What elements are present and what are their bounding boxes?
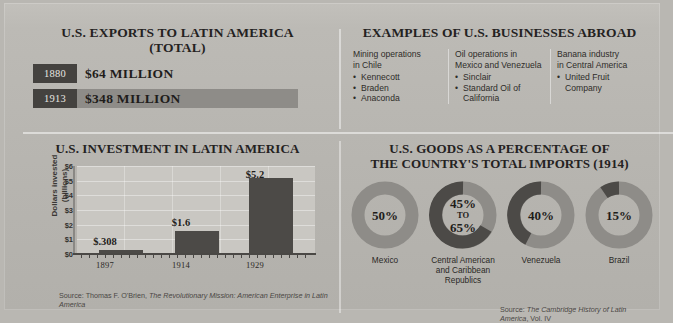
list-item-label: Sinclair: [463, 72, 491, 82]
poster-inner: U.S. EXPORTS TO LATIN AMERICA (TOTAL) 18…: [17, 15, 655, 304]
businesses-column-oil: Oil operations in Mexico and Venezuela •…: [448, 49, 550, 104]
x-tick: [169, 255, 170, 258]
x-tick: [129, 255, 130, 258]
divider-vertical-top: [339, 29, 341, 129]
investment-chart: Dollars invested (billions): [25, 164, 330, 276]
exports-row-1913: 1913 $348 MILLION: [25, 89, 330, 108]
x-tick: [137, 255, 138, 258]
donut-value-venezuela: 40%: [528, 209, 554, 222]
list-item: •Standard Oil of California: [455, 83, 544, 104]
list-item: •Kennecott: [353, 72, 442, 83]
businesses-list-oil: •Sinclair •Standard Oil of California: [455, 72, 544, 104]
imports-panel: U.S. GOODS AS A PERCENTAGE OF THE COUNTR…: [347, 141, 652, 306]
list-item-label: Standard Oil of California: [463, 83, 520, 104]
donut-label-line2: and Caribbean: [436, 265, 490, 275]
donut-label-line1: Venezuela: [522, 255, 561, 265]
x-tick: [265, 255, 266, 258]
x-tick: [257, 255, 258, 258]
businesses-list-mining: •Kennecott •Braden •Anaconda: [353, 72, 442, 104]
source-prefix: Source:: [500, 305, 527, 314]
bullet-icon: •: [455, 72, 458, 83]
heading-line1: Oil operations in: [455, 49, 517, 59]
bar-1929: [249, 178, 293, 254]
exports-year-1913: 1913: [33, 89, 77, 108]
donut-label-mexico: Mexico: [349, 255, 421, 265]
businesses-column-mining: Mining operations in Chile •Kennecott •B…: [347, 49, 448, 104]
bullet-icon: •: [353, 83, 356, 94]
donut-value-line3: 65%: [450, 221, 476, 234]
exports-panel: U.S. EXPORTS TO LATIN AMERICA (TOTAL) 18…: [25, 25, 330, 125]
x-tick: [89, 255, 90, 258]
heading-line2: in Chile: [353, 60, 382, 70]
imports-source: Source: The Cambridge History of Latin A…: [500, 305, 650, 323]
donut-value-brazil: 15%: [606, 209, 632, 222]
exports-title-line1: U.S. EXPORTS TO LATIN AMERICA: [61, 25, 294, 40]
x-tick: [153, 255, 154, 258]
bullet-icon: •: [455, 83, 458, 94]
divider-vertical-bottom: [339, 141, 341, 313]
list-item: •Anaconda: [353, 93, 442, 104]
donut-central-american: 45% TO 65% Central American and Caribbea…: [427, 179, 499, 285]
x-tick: [105, 255, 106, 258]
y-tick-0: $0: [49, 250, 73, 259]
y-tick-5: $5: [49, 177, 73, 186]
x-tick: [281, 255, 282, 258]
list-item: •Sinclair: [455, 72, 544, 83]
poster-frame: U.S. EXPORTS TO LATIN AMERICA (TOTAL) 18…: [4, 3, 660, 310]
imports-donut-row: 50% Mexico: [347, 179, 652, 297]
divider-horizontal: [23, 132, 673, 134]
exports-amount-1880: $64 MILLION: [85, 64, 173, 83]
x-label-1914: 1914: [151, 260, 211, 270]
x-tick: [217, 255, 218, 258]
donut-mexico: 50% Mexico: [349, 179, 421, 265]
bar-label-1914: $1.6: [151, 217, 211, 228]
x-tick: [193, 255, 194, 258]
source-prefix: Source: Thomas F. O'Brien,: [59, 291, 149, 300]
donut-center-central-american: 45% TO 65%: [427, 179, 499, 251]
investment-panel: U.S. INVESTMENT IN LATIN AMERICA Dollars…: [25, 141, 330, 306]
exports-amount-1913: $348 MILLION: [85, 89, 180, 108]
donut-label-central-american: Central American and Caribbean Republics: [427, 255, 499, 285]
list-item-label: Braden: [361, 83, 389, 93]
y-tick-1: $1: [49, 235, 73, 244]
donut-center-venezuela: 40%: [505, 179, 577, 251]
x-tick: [305, 255, 306, 258]
donut-value-line2: TO: [457, 210, 469, 221]
x-tick: [121, 255, 122, 258]
businesses-title: EXAMPLES OF U.S. BUSINESSES ABROAD: [347, 25, 652, 41]
donut-label-line3: Republics: [445, 275, 481, 285]
businesses-heading-banana: Banana industry in Central America: [557, 49, 646, 70]
investment-x-axis: [73, 253, 316, 255]
donut-label-brazil: Brazil: [583, 255, 655, 265]
donut-center-brazil: 15%: [583, 179, 655, 251]
imports-title-line1: U.S. GOODS AS A PERCENTAGE OF: [389, 141, 609, 156]
businesses-heading-oil: Oil operations in Mexico and Venezuela: [455, 49, 544, 70]
x-label-1929: 1929: [225, 260, 285, 270]
x-tick: [201, 255, 202, 258]
y-tick-6: $6: [49, 162, 73, 171]
businesses-columns: Mining operations in Chile •Kennecott •B…: [347, 49, 652, 104]
exports-row-1880: 1880 $64 MILLION: [25, 64, 330, 83]
bar-label-1929: $5.2: [225, 169, 285, 180]
x-tick: [225, 255, 226, 258]
list-item-label: United Fruit Company: [565, 72, 609, 93]
bullet-icon: •: [353, 72, 356, 83]
x-tick: [289, 255, 290, 258]
y-tick-4: $4: [49, 191, 73, 200]
businesses-heading-mining: Mining operations in Chile: [353, 49, 442, 70]
heading-line1: Banana industry: [557, 49, 619, 59]
donut-venezuela: 40% Venezuela: [505, 179, 577, 265]
donut-center-mexico: 50%: [349, 179, 421, 251]
list-item: •United Fruit Company: [557, 72, 646, 93]
x-tick: [249, 255, 250, 258]
donut-label-venezuela: Venezuela: [505, 255, 577, 265]
x-tick: [145, 255, 146, 258]
bullet-icon: •: [557, 72, 560, 83]
x-tick: [273, 255, 274, 258]
x-tick: [113, 255, 114, 258]
exports-title: U.S. EXPORTS TO LATIN AMERICA (TOTAL): [25, 25, 330, 55]
bar-label-1897: $.308: [75, 236, 135, 247]
bar-1914: [175, 231, 219, 255]
x-tick: [233, 255, 234, 258]
